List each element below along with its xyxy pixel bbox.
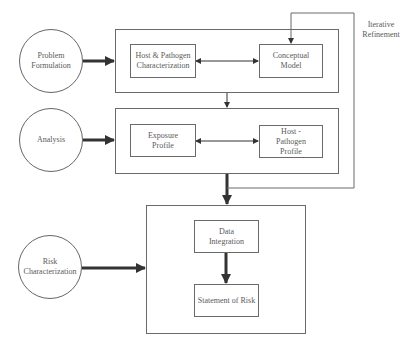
iterative-refinement-label: Iterative Refinement	[358, 20, 404, 40]
phase-label: Analysis	[37, 135, 65, 145]
box-label: Data Integration	[203, 227, 250, 247]
host-pathogen-profile-box: Host - Pathogen Profile	[259, 125, 323, 158]
box-label: Conceptual Model	[266, 51, 316, 71]
phase-label: Problem Formulation	[26, 51, 76, 71]
box-label: Exposure Profile	[139, 131, 187, 151]
phase-label: Risk Characterization	[23, 257, 77, 277]
phase-analysis: Analysis	[19, 108, 83, 172]
box-label: Host - Pathogen Profile	[270, 127, 312, 157]
statement-of-risk-box: Statement of Risk	[194, 284, 259, 317]
data-integration-box: Data Integration	[194, 220, 259, 253]
box-label: Host & Pathogen Characterization	[132, 51, 194, 71]
phase-risk-characterization: Risk Characterization	[18, 235, 82, 299]
host-pathogen-characterization-box: Host & Pathogen Characterization	[130, 44, 196, 78]
phase-problem-formulation: Problem Formulation	[19, 29, 83, 93]
exposure-profile-box: Exposure Profile	[130, 124, 196, 157]
feedback-label-text: Iterative Refinement	[362, 20, 399, 39]
box-label: Statement of Risk	[198, 296, 255, 306]
conceptual-model-box: Conceptual Model	[259, 44, 323, 78]
